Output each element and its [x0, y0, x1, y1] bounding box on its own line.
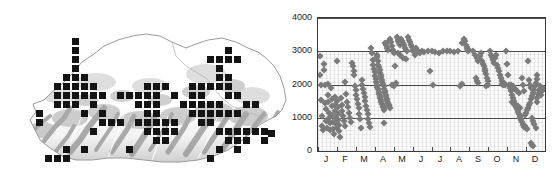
map-record-square — [45, 155, 52, 162]
map-record-square — [126, 146, 133, 153]
y-axis-tick-label: 4000 — [292, 13, 312, 22]
x-axis-tick-label: M — [398, 154, 406, 164]
map-record-square — [72, 56, 79, 63]
map-record-square — [63, 146, 70, 153]
map-record-square — [189, 110, 196, 117]
map-record-square — [90, 128, 97, 135]
map-record-square — [72, 47, 79, 54]
map-record-square — [36, 119, 43, 126]
map-record-square — [234, 110, 241, 117]
map-record-square — [234, 56, 241, 63]
map-record-square — [81, 146, 88, 153]
map-record-square — [72, 101, 79, 108]
map-record-square — [225, 47, 232, 54]
map-record-square — [207, 119, 214, 126]
x-axis-tick-label: J — [324, 154, 329, 164]
map-record-square — [243, 101, 250, 108]
map-record-square — [162, 137, 169, 144]
map-record-square — [153, 128, 160, 135]
map-record-square — [180, 101, 187, 108]
map-record-square — [225, 92, 232, 99]
plot-area — [317, 17, 546, 152]
x-tick — [545, 147, 546, 151]
map-record-square — [225, 137, 232, 144]
map-record-square — [90, 92, 97, 99]
map-record-square — [153, 83, 160, 90]
x-axis-tick-label: J — [438, 154, 443, 164]
map-record-square — [63, 74, 70, 81]
x-axis-labels: JFMAMJJASOND — [317, 154, 546, 170]
map-record-square — [144, 101, 151, 108]
map-record-square — [72, 65, 79, 72]
map-record-square — [162, 128, 169, 135]
x-axis-tick-label: M — [360, 154, 368, 164]
map-record-square — [63, 83, 70, 90]
map-record-square — [72, 74, 79, 81]
map-record-square — [216, 101, 223, 108]
map-record-square — [54, 155, 61, 162]
map-record-square — [171, 119, 178, 126]
x-axis-tick-label: J — [419, 154, 424, 164]
x-axis-tick-label: O — [493, 154, 500, 164]
map-record-square — [144, 92, 151, 99]
map-record-square — [153, 110, 160, 117]
x-axis-tick-label: N — [513, 154, 520, 164]
map-record-square — [198, 101, 205, 108]
x-tick — [337, 147, 338, 151]
map-record-square — [117, 92, 124, 99]
map-record-square — [54, 92, 61, 99]
record-squares-layer — [0, 0, 288, 176]
x-tick — [432, 147, 433, 151]
map-record-square — [72, 92, 79, 99]
map-record-square — [189, 83, 196, 90]
map-record-square — [198, 83, 205, 90]
map-record-square — [162, 83, 169, 90]
x-tick — [488, 147, 489, 151]
map-record-square — [144, 110, 151, 117]
map-record-square — [63, 101, 70, 108]
map-record-square — [144, 119, 151, 126]
map-record-square — [171, 92, 178, 99]
map-record-square — [63, 155, 70, 162]
y-axis-tick-label: 3000 — [292, 46, 312, 55]
map-record-square — [268, 130, 275, 137]
x-tick — [469, 147, 470, 151]
map-record-square — [36, 110, 43, 117]
map-record-square — [216, 56, 223, 63]
y-axis-tick-label: 2000 — [292, 80, 312, 89]
map-record-square — [243, 128, 250, 135]
map-record-square — [171, 128, 178, 135]
map-record-square — [252, 101, 259, 108]
map-record-square — [207, 56, 214, 63]
map-record-square — [225, 128, 232, 135]
x-tick — [394, 147, 395, 151]
map-record-square — [135, 101, 142, 108]
map-record-square — [198, 110, 205, 117]
map-record-square — [81, 74, 88, 81]
map-record-square — [234, 137, 241, 144]
map-record-square — [153, 137, 160, 144]
y-axis-labels: 01000200030004000 — [288, 17, 314, 152]
map-record-square — [198, 92, 205, 99]
map-record-square — [225, 83, 232, 90]
map-record-square — [81, 92, 88, 99]
map-record-square — [261, 137, 268, 144]
map-record-square — [216, 128, 223, 135]
x-axis-tick-label: A — [456, 154, 462, 164]
map-record-square — [225, 56, 232, 63]
map-record-square — [144, 128, 151, 135]
map-record-square — [81, 83, 88, 90]
map-record-square — [225, 110, 232, 117]
x-tick — [450, 147, 451, 151]
x-axis-tick-label: A — [380, 154, 386, 164]
x-tick — [375, 147, 376, 151]
map-record-square — [72, 83, 79, 90]
map-record-square — [252, 128, 259, 135]
map-record-square — [234, 92, 241, 99]
map-record-square — [54, 101, 61, 108]
map-record-square — [216, 83, 223, 90]
y-axis-tick-label: 1000 — [292, 113, 312, 122]
map-record-square — [207, 110, 214, 117]
map-record-square — [144, 83, 151, 90]
distribution-map-panel — [0, 0, 288, 176]
